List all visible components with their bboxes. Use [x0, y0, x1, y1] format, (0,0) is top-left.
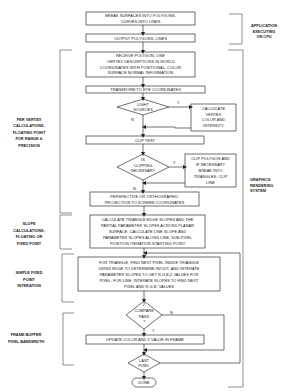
label-text: FOR RANGE &: [15, 136, 42, 141]
bracket-per-vertex: [60, 50, 72, 213]
node-text: CLIPPING: [134, 163, 153, 168]
node-light-sources: LIGHT SOURCES: [117, 99, 169, 115]
node-text: RECEIVE POLYGON, LINE: [116, 53, 165, 58]
label-application: APPLICATION EXECUTING ON CPU: [251, 23, 277, 39]
node-text: CLIP TEST: [135, 138, 156, 143]
label-text: SLOPE: [22, 221, 36, 226]
node-text: FOR TRIANGLE, FIND NEXT PIXEL INSIDE TRI…: [99, 260, 199, 265]
node-z-compare: Z COMPARE PASS ?: [126, 301, 162, 329]
label-text: RENDERING: [250, 183, 273, 188]
node-text: INTENSITY: [203, 123, 224, 128]
label-slope: SLOPE CALCULATIONS, FLOATING OR FIXED PO…: [13, 221, 44, 246]
node-text: CLIP POLYGON AND: [191, 156, 230, 161]
node-text: OUTPUT POLYGONS, LINES: [114, 36, 167, 41]
label-text: GRAPHICS: [250, 177, 271, 182]
node-text: SOURCES: [133, 107, 153, 112]
node-text: COLOR AND: [202, 117, 226, 122]
label-text: APPLICATION: [251, 23, 277, 28]
node-text: IF NECESSARY: [196, 162, 225, 167]
bracket-application: [229, 14, 242, 44]
label-text: CALCULATIONS,: [13, 123, 44, 128]
node-text: PARAMETER SLOPES TO GET R,G,B,Z VALUES F…: [100, 272, 199, 277]
node-text: PROJECTION TO SCREEN COORDINATES: [105, 200, 185, 205]
label-text: INTERATION: [17, 283, 41, 288]
node-text: NECESSARY: [131, 168, 156, 173]
label-text: SYSTEM: [250, 188, 266, 193]
node-output-polygons: OUTPUT POLYGONS, LINES: [86, 34, 195, 42]
node-text: PIXEL; FOR LINE, INTERATE SLOPES TO FIND…: [99, 278, 199, 283]
label-text: SIMPLE FIXED: [15, 270, 42, 275]
label-simple-fixed: SIMPLE FIXED POINT INTERATION: [15, 270, 42, 288]
label-text: PRECISION: [18, 143, 40, 148]
label-text: ON CPU: [256, 34, 271, 39]
bracket-frame-buffer: [63, 313, 74, 365]
node-text: USING EDGE TO DETERMINE IN/OUT, AND INTE…: [99, 266, 200, 271]
node-text: CALCULATE: [202, 106, 225, 111]
edge-label-yes: Y: [173, 160, 176, 165]
node-text: COMPARE: [134, 308, 154, 313]
label-text: FLOATING OR: [16, 234, 43, 239]
node-text: SURFACE, CALCULATE LINE SLOPE AND: [109, 229, 187, 234]
node-break-surfaces: BREAK SURFACES INTO POLYGONS, CURVES INT…: [86, 12, 195, 25]
node-text: CURVES INTO LINES: [121, 19, 161, 24]
node-text: SURFACE NORMAL INFORMATION: [108, 70, 173, 75]
edge-label-no: N: [170, 310, 173, 315]
label-graphics-system: GRAPHICS RENDERING SYSTEM: [250, 177, 273, 193]
node-update-color: UPDATE COLOR AND Z VALUE IN FRAME: [86, 335, 204, 344]
label-per-vertex: PER VERTEX CALCULATIONS, FLOATING POINT …: [13, 117, 46, 148]
label-text: FLOATING POINT: [13, 130, 46, 135]
pipeline-flowchart: BREAK SURFACES INTO POLYGONS, CURVES INT…: [0, 0, 285, 392]
node-text: POSITION ITERATION STARTING POINT: [110, 241, 186, 246]
node-text: COORDINATES WITH POSITIONAL, COLOR: [100, 65, 182, 70]
node-text: PERSPECTIVE OR ORTHOGRAPHIC: [110, 194, 178, 199]
node-text: LINE: [206, 180, 215, 185]
node-is-clipping: IS CLIPPING NECESSARY: [117, 154, 169, 180]
node-text: VERTEX: [206, 112, 222, 117]
node-clip-polygon: CLIP POLYGON AND IF NECESSARY BREAK INTO…: [185, 154, 236, 187]
node-text: -VERTEX DESCRIPTIONS IN WORLD: [106, 59, 175, 64]
edge-label-yes: Y: [177, 100, 180, 105]
node-text: IS: [141, 157, 145, 162]
node-done: DONE: [132, 378, 156, 387]
label-frame-buffer: FRAME BUFFER PIXEL BANDWIDTH: [8, 332, 44, 344]
label-text: PER VERTEX: [17, 117, 42, 122]
node-text: PARTIAL PARAMETER SLOPES ACROSS PLANAR: [101, 223, 194, 228]
node-text: LAST: [139, 358, 150, 363]
node-text: BREAK INTO: [199, 168, 223, 173]
label-text: FIXED POINT: [17, 241, 42, 246]
node-find-next-pixel: FOR TRIANGLE, FIND NEXT PIXEL INSIDE TRI…: [78, 257, 220, 291]
edge-label-yes: Y: [152, 328, 155, 333]
node-text: DONE: [138, 380, 150, 385]
node-text: BREAK SURFACES INTO POLYGONS,: [105, 13, 176, 18]
node-receive-polygon: RECEIVE POLYGON, LINE -VERTEX DESCRIPTIO…: [86, 52, 195, 77]
edge-label-no: N: [131, 117, 134, 122]
bracket-slope: [60, 215, 72, 249]
node-clip-test: CLIP TEST: [86, 136, 204, 144]
bracket-simple-fixed: [62, 254, 74, 302]
node-calc-slopes: CALCULATE TRIANGLE EDGE SLOPES AND THE P…: [90, 215, 205, 248]
bracket-graphics-system: [228, 50, 243, 387]
node-projection: PERSPECTIVE OR ORTHOGRAPHIC PROJECTION T…: [90, 192, 199, 206]
node-last-pixel: LAST PIXEL: [128, 354, 160, 372]
node-transform-eye: TRANSFORM TO EYE COORDINATES: [86, 86, 205, 93]
edge-label-no: N: [133, 186, 136, 191]
node-calc-vertex: CALCULATE VERTEX COLOR AND INTENSITY: [191, 104, 236, 131]
label-text: POINT: [23, 277, 36, 282]
node-text: PARAMETER SLOPES ALONG LINE, SUB-PIXEL: [103, 235, 193, 240]
label-text: FRAME BUFFER: [11, 332, 42, 337]
node-text: PIXEL: [138, 363, 150, 368]
node-text: TRANSFORM TO EYE COORDINATES: [110, 87, 181, 92]
node-text: PIXEL AND R,G,B, VALUES: [124, 284, 174, 289]
label-text: PIXEL BANDWIDTH: [8, 339, 44, 344]
node-text: TRIANGLES; CLIP: [194, 174, 228, 179]
node-text: CALCULATE TRIANGLE EDGE SLOPES AND THE: [102, 217, 194, 222]
node-text: UPDATE COLOR AND Z VALUE IN FRAME: [106, 337, 184, 342]
node-text: PASS: [139, 314, 150, 319]
label-text: CALCULATIONS,: [13, 228, 44, 233]
label-text: EXECUTING: [253, 29, 276, 34]
